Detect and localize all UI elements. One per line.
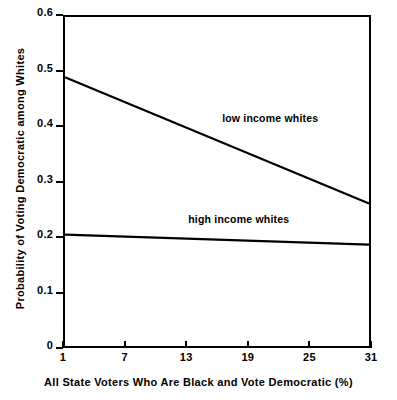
x-tick-label: 13 [166,352,206,363]
y-tick-mark [56,181,63,183]
y-axis-label: Probability of Voting Democratic among W… [14,29,27,329]
series-line-low-income-whites [65,77,369,203]
x-tick-label: 25 [289,352,329,363]
y-tick-mark [56,70,63,72]
y-tick-mark [56,14,63,16]
x-tick-label: 19 [228,352,268,363]
x-tick-mark [308,341,310,348]
annotation-low-income-whites: low income whites [222,112,318,124]
y-tick-label: 0 [47,340,53,351]
x-tick-mark [370,341,372,348]
x-tick-mark [247,341,249,348]
y-tick-label: 0.6 [37,7,53,18]
chart-figure: 00.10.20.30.40.50.6 1713192531 low incom… [0,0,397,400]
y-tick-mark [56,125,63,127]
series-line-high-income-whites [65,235,369,245]
x-tick-mark [62,341,64,348]
y-tick-label: 0.2 [37,229,53,240]
annotation-high-income-whites: high income whites [188,213,289,225]
y-tick-label: 0.4 [37,118,53,129]
y-tick-label: 0.3 [37,174,53,185]
plot-area [63,15,371,348]
x-tick-label: 1 [43,352,83,363]
y-tick-mark [56,236,63,238]
y-tick-label: 0.5 [37,63,53,74]
y-tick-label: 0.1 [37,285,53,296]
x-axis-label: All State Voters Who Are Black and Vote … [0,376,397,389]
x-tick-mark [124,341,126,348]
x-tick-label: 7 [105,352,145,363]
y-tick-mark [56,292,63,294]
series-lines [65,17,369,346]
x-tick-label: 31 [351,352,391,363]
x-tick-mark [185,341,187,348]
